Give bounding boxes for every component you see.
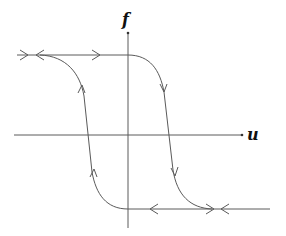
arrow-up-icon	[90, 169, 97, 177]
f-axis-label: f	[121, 10, 132, 29]
u-axis-label: u	[247, 125, 259, 144]
f-axis-end-dot	[127, 32, 130, 35]
arrow-down-icon	[171, 167, 178, 176]
ascending-branch	[40, 55, 128, 209]
arrow-up-icon	[78, 85, 85, 93]
descending-branch	[128, 55, 212, 209]
hysteresis-diagram: u f	[0, 0, 286, 236]
u-axis-end-dot	[241, 134, 244, 137]
